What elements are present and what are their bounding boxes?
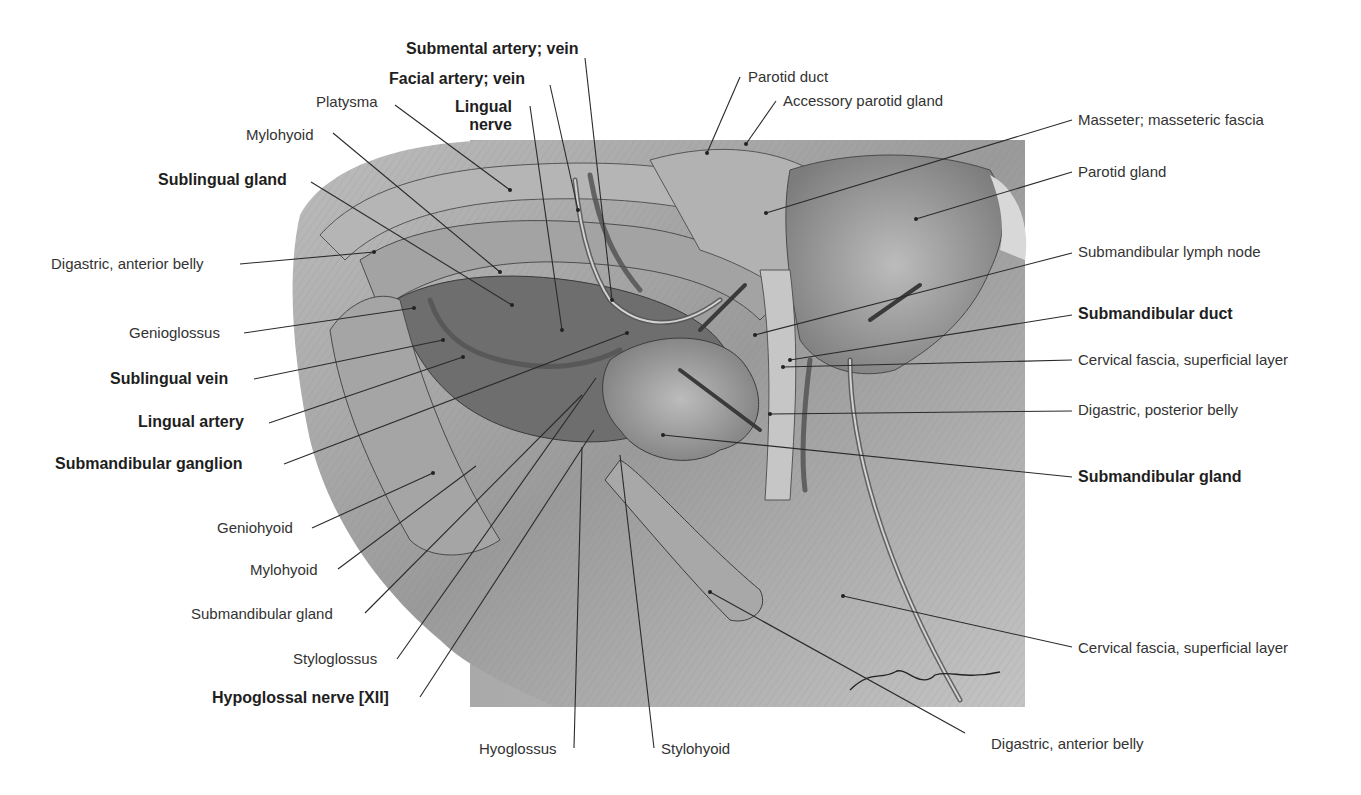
label-mylohyoid-top: Mylohyoid <box>246 126 314 144</box>
label-parotid-gland: Parotid gland <box>1078 163 1166 181</box>
label-geniohyoid: Geniohyoid <box>217 519 293 537</box>
label-hypoglossal-nerve: Hypoglossal nerve [XII] <box>212 689 389 707</box>
label-platysma: Platysma <box>316 93 378 111</box>
label-cervical-fascia-bottom: Cervical fascia, superficial layer <box>1078 639 1288 657</box>
label-lingual-artery: Lingual artery <box>138 413 244 431</box>
label-masseter-fascia: Masseter; masseteric fascia <box>1078 111 1264 129</box>
label-submental-artery-vein: Submental artery; vein <box>406 40 579 58</box>
label-accessory-parotid-gland: Accessory parotid gland <box>783 92 943 110</box>
illustration-plate <box>293 140 1027 707</box>
label-submandibular-gland-right: Submandibular gland <box>1078 468 1242 486</box>
label-digastric-anterior-belly-left: Digastric, anterior belly <box>51 255 204 273</box>
label-sublingual-gland: Sublingual gland <box>158 171 287 189</box>
label-lingual-nerve: Lingual nerve <box>455 98 512 134</box>
label-stylohyoid: Stylohyoid <box>661 740 730 758</box>
label-genioglossus: Genioglossus <box>129 324 220 342</box>
label-submandibular-duct: Submandibular duct <box>1078 305 1233 323</box>
label-sublingual-vein: Sublingual vein <box>110 370 228 388</box>
label-parotid-duct: Parotid duct <box>748 68 828 86</box>
label-hyoglossus: Hyoglossus <box>479 740 557 758</box>
label-digastric-anterior-belly-bottom: Digastric, anterior belly <box>991 735 1144 753</box>
label-submandibular-lymph-node: Submandibular lymph node <box>1078 243 1261 261</box>
label-mylohyoid-bottom: Mylohyoid <box>250 561 318 579</box>
label-submandibular-ganglion: Submandibular ganglion <box>55 455 243 473</box>
label-facial-artery-vein: Facial artery; vein <box>389 70 525 88</box>
anatomy-figure: Submental artery; vein Facial artery; ve… <box>0 0 1361 795</box>
label-digastric-posterior-belly: Digastric, posterior belly <box>1078 401 1238 419</box>
label-submandibular-gland-left: Submandibular gland <box>191 605 333 623</box>
label-cervical-fascia-top: Cervical fascia, superficial layer <box>1078 351 1288 369</box>
label-styloglossus: Styloglossus <box>293 650 377 668</box>
